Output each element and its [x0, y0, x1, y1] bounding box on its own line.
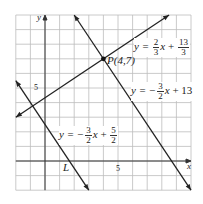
point-p-text: P(4,7) [107, 54, 135, 66]
point-p [101, 56, 106, 61]
x-tick-label-5: 5 [116, 165, 120, 173]
y-tick-label-5: 5 [34, 84, 38, 92]
equation-line-1: y = 23x + 133 [134, 38, 190, 57]
coordinate-plane [0, 0, 203, 204]
eq3-lhs: y = − [59, 128, 84, 140]
eq3-const: 52 [110, 126, 117, 145]
x-axis-label: x [187, 162, 191, 171]
equation-line-2: y = −32x + 13 [131, 82, 192, 101]
point-p-label: P(4,7) [107, 55, 135, 66]
eq1-coef: 23 [153, 38, 160, 57]
line-l-name: L [63, 162, 69, 173]
eq1-const: 133 [178, 38, 189, 57]
eq3-coef: 32 [85, 126, 92, 145]
eq2-coef: 32 [157, 82, 164, 101]
equation-line-l: y = −32x + 52 [59, 126, 118, 145]
eq2-lhs: y = − [131, 84, 156, 96]
y-axis-label: y [37, 13, 41, 22]
eq1-lhs: y = [134, 40, 152, 52]
